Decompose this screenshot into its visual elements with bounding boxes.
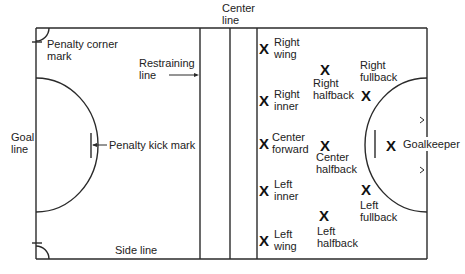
right-goal-post-marker-top bbox=[420, 117, 424, 123]
player-marker: X bbox=[259, 232, 269, 249]
restraining-line-label: Restraining bbox=[139, 57, 195, 69]
penalty-corner-mark-label: Penalty corner bbox=[47, 38, 118, 50]
goal-line-label: Goal bbox=[11, 131, 34, 143]
player-label: Left bbox=[274, 228, 292, 240]
player-label-2: halfback bbox=[317, 237, 358, 249]
player-label: Left bbox=[274, 178, 292, 190]
restraining-line-arrowhead bbox=[194, 73, 199, 77]
player-right-halfback: X Right halfback bbox=[313, 61, 354, 101]
player-label-2: fullback bbox=[360, 71, 398, 83]
penalty-kick-mark-arrowhead bbox=[92, 143, 97, 147]
player-label: Right bbox=[274, 88, 300, 100]
player-marker: X bbox=[259, 40, 269, 57]
player-marker: X bbox=[386, 137, 396, 154]
player-label: Left bbox=[360, 199, 378, 211]
player-label-2: wing bbox=[273, 48, 297, 60]
left-striking-circle bbox=[36, 78, 98, 212]
player-marker: X bbox=[361, 87, 371, 104]
side-line-label: Side line bbox=[115, 244, 157, 256]
penalty-corner-mark-label-2: mark bbox=[47, 50, 72, 62]
player-label: Left bbox=[317, 225, 335, 237]
player-label: Goalkeeper bbox=[403, 138, 460, 150]
player-label: Right bbox=[313, 77, 339, 89]
player-marker: X bbox=[320, 61, 330, 78]
right-goal-post-marker-bottom bbox=[420, 167, 424, 173]
center-line-label-2: line bbox=[222, 14, 239, 26]
player-label-2: halfback bbox=[316, 163, 357, 175]
player-left-inner: X Left inner bbox=[259, 178, 299, 202]
player-marker: X bbox=[361, 181, 371, 198]
player-right-inner: X Right inner bbox=[259, 88, 300, 112]
player-label: Right bbox=[360, 59, 386, 71]
player-label-2: wing bbox=[273, 240, 297, 252]
field-hockey-diagram: Center line Penalty corner mark Restrain… bbox=[0, 0, 465, 274]
player-marker: X bbox=[259, 182, 269, 199]
player-marker: X bbox=[319, 207, 329, 224]
player-label-2: fullback bbox=[360, 211, 398, 223]
player-label-2: inner bbox=[274, 190, 299, 202]
player-marker: X bbox=[259, 92, 269, 109]
player-right-wing: X Right wing bbox=[259, 36, 300, 60]
player-goalkeeper: X Goalkeeper bbox=[386, 137, 462, 154]
bottom-left-corner-arc bbox=[36, 246, 49, 259]
player-left-halfback: X Left halfback bbox=[317, 207, 358, 249]
player-center-forward: X Center forward bbox=[259, 131, 309, 155]
penalty-kick-mark-label: Penalty kick mark bbox=[109, 139, 196, 151]
player-label-2: halfback bbox=[313, 89, 354, 101]
player-label-2: inner bbox=[274, 100, 299, 112]
player-label: Center bbox=[316, 151, 349, 163]
player-center-halfback: X Center halfback bbox=[316, 137, 357, 175]
player-right-fullback: Right fullback X bbox=[360, 59, 398, 104]
player-label: Center bbox=[272, 131, 305, 143]
center-line-label: Center bbox=[222, 2, 255, 14]
restraining-line-label-2: line bbox=[139, 69, 156, 81]
player-left-wing: X Left wing bbox=[259, 228, 297, 252]
player-marker: X bbox=[259, 135, 269, 152]
goal-line-label-2: line bbox=[11, 143, 28, 155]
player-label-2: forward bbox=[272, 143, 309, 155]
player-label: Right bbox=[274, 36, 300, 48]
